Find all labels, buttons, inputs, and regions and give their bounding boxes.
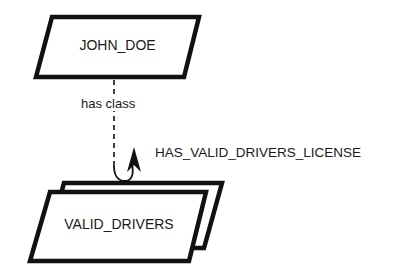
- valid-drivers-label: VALID_DRIVERS: [30, 216, 208, 232]
- has-class-edge-label: has class: [80, 96, 136, 111]
- john-doe-label: JOHN_DOE: [0, 37, 235, 53]
- property-label: HAS_VALID_DRIVERS_LICENSE: [155, 145, 361, 160]
- arrowhead-icon: [127, 147, 141, 172]
